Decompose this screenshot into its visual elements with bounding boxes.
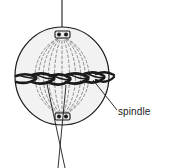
mitosis-diagram: spindle [0, 0, 170, 168]
centriole-top [55, 31, 70, 38]
spindle-label: spindle [118, 106, 150, 117]
diagram-canvas [0, 0, 170, 168]
